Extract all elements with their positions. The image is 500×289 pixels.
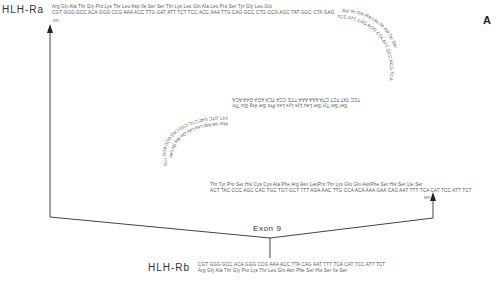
curve-upper-nt: TCC ATT CAG AGG CTA ATT GCC ACG TCA — [337, 14, 394, 82]
exon-label: Exon 9 — [253, 224, 282, 233]
hlh-rb-label: HLH-Rb — [148, 262, 190, 273]
hlh-rb-nt-line: CGT GGG GCC ACA GGG CCG AAA ACC TTA CAG … — [198, 262, 385, 267]
hlh-ra-label: HLH-Ra — [2, 4, 44, 15]
panel-label: A — [483, 14, 491, 26]
splice-connector-lines: Ser Ile Gln Ala Leu Ile Ala Tyr Ser TCC … — [0, 0, 500, 289]
hlh-ra-nt-line: CGT GGG GCC ACA GGG CCG AAA ACC TTG GAT … — [52, 10, 334, 15]
middle-nt-line: TCC TAT TCT CTA AAA AAA TTG CCA TCA AGA … — [232, 97, 360, 102]
hlh-rb-aa-line: Arg Gly Ala Thr Gly Pro Lys Thr Leu Gln … — [198, 268, 347, 273]
lower-nt-line: ACT TAC CCC AGC CAC TGC TGT GCT TTT AGA … — [210, 188, 472, 193]
middle-aa-line: Ser Ser Tyr Ser Leu Lys Lys Leu Pro Ser … — [232, 103, 347, 108]
svg-text:TCC ATT CAG AGG CTA ATT GCC AC: TCC ATT CAG AGG CTA ATT GCC ACG TCA — [337, 14, 394, 82]
hlh-ra-aa-line: Arg Gly Ala Thr Gly Pro Lys Thr Leu Asp … — [52, 4, 272, 9]
lower-aa-line: Thr Tyr Pro Ser His Cys Cys Ala Phe Arg … — [210, 182, 423, 187]
position-889: 889 — [424, 196, 430, 200]
position-691: 691 — [53, 19, 59, 23]
svg-text:Phe Val Asp Leu Leu Gln Ala Th: Phe Val Asp Leu Leu Gln Ala Thr Leu — [169, 121, 228, 158]
curve-lower-aa: Phe Val Asp Leu Leu Gln Ala Thr Leu — [169, 121, 228, 158]
